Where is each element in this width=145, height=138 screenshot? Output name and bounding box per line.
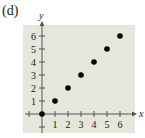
y-tick-label: 1: [31, 96, 36, 107]
x-axis-label: x: [138, 108, 144, 119]
data-point: [104, 46, 110, 52]
y-axis-label: y: [38, 10, 44, 21]
x-tick-label: 3: [79, 119, 84, 130]
data-point: [65, 85, 71, 91]
y-tick-label: 6: [31, 31, 36, 42]
y-tick-label: 5: [31, 44, 36, 55]
y-axis-arrow-icon: [40, 21, 45, 26]
data-point: [78, 72, 84, 78]
scatter-chart: xy123456123456: [0, 0, 145, 138]
data-point: [52, 98, 58, 104]
plot-background: [23, 25, 135, 133]
data-point: [117, 33, 123, 39]
data-point: [39, 111, 45, 117]
x-tick-label: 4: [92, 119, 97, 130]
x-tick-label: 6: [118, 119, 123, 130]
y-tick-label: 4: [31, 57, 36, 68]
x-tick-label: 5: [105, 119, 110, 130]
data-point: [91, 59, 97, 65]
x-tick-label: 2: [66, 119, 71, 130]
y-tick-label: 3: [31, 70, 36, 81]
x-tick-label: 1: [53, 119, 58, 130]
y-tick-label: 2: [31, 83, 36, 94]
